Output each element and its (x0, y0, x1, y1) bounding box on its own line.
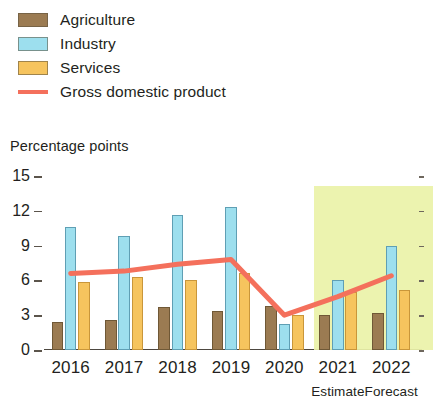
x-axis-tick-label: 2020 (258, 358, 311, 378)
y-axis-tick-right (419, 280, 424, 282)
legend-item-label: Gross domestic product (60, 83, 226, 101)
legend-item-industry[interactable]: Industry (18, 32, 226, 56)
x-axis-tick-label: 2022 (365, 358, 418, 378)
y-axis-tick-label: 9 (0, 236, 30, 254)
services-swatch-icon (18, 61, 48, 75)
legend-item-gross-domestic-product[interactable]: Gross domestic product (18, 80, 226, 104)
y-axis-tick (34, 176, 42, 178)
y-axis-tick (34, 350, 42, 352)
y-axis-tick-right (419, 176, 424, 178)
annotation-forecast: Forecast (365, 384, 418, 399)
y-axis-tick (34, 280, 42, 282)
y-axis-tick (34, 246, 42, 248)
annotation-estimate: Estimate (311, 384, 364, 399)
y-axis-tick-label: 15 (0, 167, 30, 185)
y-axis-tick-right (419, 315, 424, 317)
y-axis-tick-label: 3 (0, 306, 30, 324)
x-axis-tick-label: 2017 (97, 358, 150, 378)
y-axis-tick-label: 12 (0, 201, 30, 219)
agriculture-swatch-icon (18, 13, 48, 27)
industry-swatch-icon (18, 37, 48, 51)
gdp-line-series[interactable] (71, 260, 392, 316)
legend-item-label: Services (60, 59, 120, 77)
x-axis-tick-label: 2016 (44, 358, 97, 378)
y-axis-tick-right (419, 211, 424, 213)
chart-legend: Agriculture Industry Services Gross dome… (18, 8, 226, 104)
legend-item-services[interactable]: Services (18, 56, 226, 80)
legend-item-label: Industry (60, 35, 116, 53)
y-axis-title: Percentage points (10, 138, 129, 154)
legend-item-label: Agriculture (60, 11, 135, 29)
x-axis-tick-label: 2021 (311, 358, 364, 378)
gdp-line-swatch-icon (18, 90, 48, 94)
x-axis-tick-label: 2018 (151, 358, 204, 378)
x-axis-tick-label: 2019 (204, 358, 257, 378)
y-axis-tick-label: 6 (0, 271, 30, 289)
y-axis-tick-label: 0 (0, 341, 30, 359)
legend-item-agriculture[interactable]: Agriculture (18, 8, 226, 32)
y-axis-tick (34, 315, 42, 317)
y-axis-tick-right (419, 350, 424, 352)
gdp-line-layer (44, 176, 418, 350)
y-axis-tick-right (419, 246, 424, 248)
y-axis-tick (34, 211, 42, 213)
plot-area: 03691215201620172018201920202021Estimate… (44, 176, 418, 350)
